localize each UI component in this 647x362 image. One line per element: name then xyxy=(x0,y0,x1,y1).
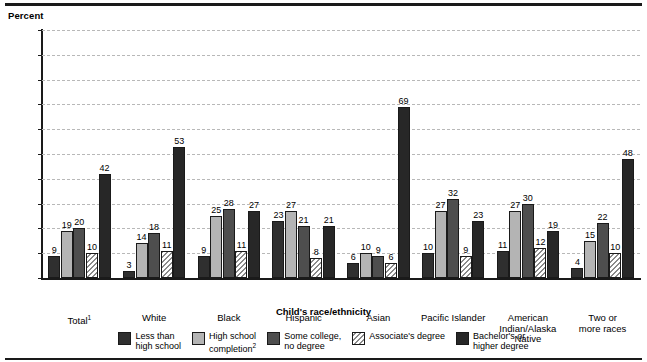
y-tick-mark-10 xyxy=(38,253,42,254)
bar-value-label: 11 xyxy=(162,240,171,250)
bar: 48 xyxy=(622,159,634,278)
bar-cluster: 314181153 xyxy=(123,30,185,278)
bar-value-label: 27 xyxy=(286,200,296,210)
bar-value-label: 19 xyxy=(62,220,72,230)
bar: 19 xyxy=(547,231,559,278)
bar-value-label: 9 xyxy=(201,245,206,255)
bar-value-label: 3 xyxy=(126,260,131,270)
y-tick-mark-40 xyxy=(38,179,42,180)
bar-value-label: 22 xyxy=(598,212,608,222)
bar-value-label: 4 xyxy=(575,257,580,267)
bar: 27 xyxy=(435,211,447,278)
bar-value-label: 27 xyxy=(510,200,520,210)
bar: 15 xyxy=(584,241,596,278)
bar: 23 xyxy=(272,221,284,278)
bar: 8 xyxy=(310,258,322,278)
y-axis-title: Percent xyxy=(8,10,44,21)
legend-item[interactable]: High schoolcompletion2 xyxy=(192,331,256,354)
bar-value-label: 11 xyxy=(237,240,246,250)
bar-value-label: 32 xyxy=(448,188,458,198)
bar: 11 xyxy=(235,251,247,278)
bar: 21 xyxy=(298,226,310,278)
bottom-divider xyxy=(5,358,642,360)
legend-label: Some college,no degree xyxy=(284,331,341,351)
bar-value-label: 25 xyxy=(211,205,221,215)
bar: 25 xyxy=(210,216,222,278)
bar-value-label: 28 xyxy=(224,198,234,208)
bar-value-label: 19 xyxy=(548,220,558,230)
bar-value-label: 53 xyxy=(174,136,184,146)
bar-value-label: 12 xyxy=(535,237,545,247)
bar: 4 xyxy=(571,268,583,278)
legend-swatch xyxy=(192,332,205,345)
bar: 9 xyxy=(372,256,384,278)
bar-value-label: 27 xyxy=(249,200,259,210)
bar-value-label: 21 xyxy=(299,215,309,225)
bar: 3 xyxy=(123,271,135,278)
bar-value-label: 21 xyxy=(324,215,334,225)
bar: 10 xyxy=(360,253,372,278)
legend-item[interactable]: Bachelor's orhigher degree xyxy=(456,331,529,351)
legend-item[interactable]: Less thanhigh school xyxy=(118,331,181,351)
bar: 11 xyxy=(497,251,509,278)
legend-swatch xyxy=(352,332,365,345)
y-tick-mark-20 xyxy=(38,228,42,229)
y-tick-mark-80 xyxy=(38,80,42,81)
bar-value-label: 42 xyxy=(100,163,110,173)
bar-value-label: 10 xyxy=(423,242,433,252)
y-tick-mark-0 xyxy=(38,278,42,279)
y-tick-mark-30 xyxy=(38,204,42,205)
bar: 28 xyxy=(223,209,235,278)
bar: 20 xyxy=(73,228,85,278)
bar-value-label: 10 xyxy=(87,242,97,252)
bar-value-label: 30 xyxy=(523,193,533,203)
legend-label: Less thanhigh school xyxy=(135,331,181,351)
y-tick-mark-90 xyxy=(38,55,42,56)
bar-value-label: 9 xyxy=(52,245,57,255)
bar-value-label: 6 xyxy=(351,252,356,262)
bar-value-label: 48 xyxy=(623,148,633,158)
chart-page: Percent 0102030405060708090100919201042T… xyxy=(0,0,647,362)
bar: 18 xyxy=(148,233,160,278)
bar: 10 xyxy=(609,253,621,278)
bar: 23 xyxy=(472,221,484,278)
bar: 9 xyxy=(198,256,210,278)
bar-value-label: 14 xyxy=(137,232,147,242)
bar: 21 xyxy=(323,226,335,278)
y-tick-mark-100 xyxy=(38,30,42,31)
legend-item[interactable]: Associate's degree xyxy=(352,331,445,345)
bar-value-label: 27 xyxy=(436,200,446,210)
bar-cluster: 919201042 xyxy=(48,30,110,278)
bar: 27 xyxy=(509,211,521,278)
bar: 19 xyxy=(61,231,73,278)
bar: 14 xyxy=(136,243,148,278)
bar-value-label: 23 xyxy=(473,210,483,220)
bar: 30 xyxy=(522,204,534,278)
bar: 42 xyxy=(99,174,111,278)
legend-label: High schoolcompletion2 xyxy=(209,331,256,354)
bar-value-label: 69 xyxy=(399,96,409,106)
bar: 10 xyxy=(422,253,434,278)
legend-label: Bachelor's orhigher degree xyxy=(473,331,529,351)
legend-label: Associate's degree xyxy=(369,331,445,341)
x-axis-title: Child's race/ethnicity xyxy=(0,306,647,317)
bar-value-label: 9 xyxy=(376,245,381,255)
bar: 22 xyxy=(597,223,609,278)
bar: 27 xyxy=(285,211,297,278)
chart-legend: Less thanhigh schoolHigh schoolcompletio… xyxy=(0,331,647,354)
bar-cluster: 6109669 xyxy=(347,30,409,278)
bar: 53 xyxy=(173,147,185,278)
bar: 6 xyxy=(347,263,359,278)
bar-value-label: 18 xyxy=(149,222,159,232)
bar: 27 xyxy=(248,211,260,278)
bar-cluster: 1127301219 xyxy=(497,30,559,278)
y-tick-mark-50 xyxy=(38,154,42,155)
bar: 9 xyxy=(48,256,60,278)
legend-item[interactable]: Some college,no degree xyxy=(267,331,341,351)
bar: 12 xyxy=(534,248,546,278)
bar-cluster: 102732923 xyxy=(422,30,484,278)
bar-value-label: 23 xyxy=(273,210,283,220)
bar: 10 xyxy=(86,253,98,278)
bar: 9 xyxy=(460,256,472,278)
bar-cluster: 925281127 xyxy=(198,30,260,278)
